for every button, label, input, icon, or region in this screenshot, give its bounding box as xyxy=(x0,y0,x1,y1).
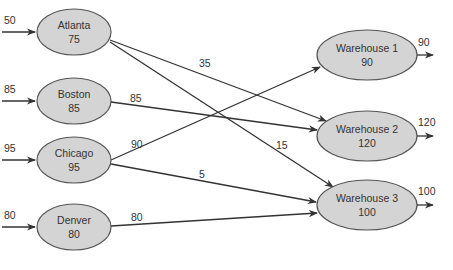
node-value: 75 xyxy=(68,33,80,45)
node-name: Atlanta xyxy=(58,19,91,31)
node-name: Warehouse 1 xyxy=(336,42,398,54)
node-value: 90 xyxy=(361,56,373,68)
atlanta-inflow-label: 50 xyxy=(4,14,16,26)
edge-boston-warehouse2: 85 xyxy=(111,92,317,130)
edge-label: 5 xyxy=(199,168,205,180)
node-name: Warehouse 2 xyxy=(336,123,398,135)
edge-label: 35 xyxy=(199,57,211,69)
node-value: 85 xyxy=(68,102,80,114)
warehouse3-outflow: 100 xyxy=(417,185,436,205)
edge-atlanta-warehouse3: 15 xyxy=(110,42,333,187)
boston-inflow: 85 xyxy=(2,83,35,101)
node-value: 120 xyxy=(358,137,376,149)
node-value: 95 xyxy=(68,161,80,173)
node-name: Chicago xyxy=(55,147,94,159)
warehouse1-outflow: 90 xyxy=(417,36,433,55)
edge-atlanta-warehouse2: 35 xyxy=(110,40,326,121)
denver-inflow-label: 80 xyxy=(4,209,16,221)
node-value: 80 xyxy=(68,228,80,240)
node-warehouse3: Warehouse 3 100 xyxy=(317,180,417,230)
edge-chicago-warehouse1: 90 xyxy=(111,67,320,160)
edge-chicago-warehouse3: 5 xyxy=(111,164,316,202)
node-atlanta: Atlanta 75 xyxy=(37,9,111,55)
atlanta-inflow: 50 xyxy=(2,14,35,32)
node-warehouse1: Warehouse 1 90 xyxy=(317,30,417,80)
node-chicago: Chicago 95 xyxy=(37,137,111,183)
node-value: 100 xyxy=(358,206,376,218)
edge-arrow-icon xyxy=(110,40,326,121)
node-boston: Boston 85 xyxy=(37,78,111,124)
edge-label: 85 xyxy=(130,92,142,104)
edge-label: 15 xyxy=(276,139,288,151)
node-name: Warehouse 3 xyxy=(336,192,398,204)
warehouse2-outflow: 120 xyxy=(417,116,436,136)
chicago-inflow-label: 95 xyxy=(4,142,16,154)
node-name: Boston xyxy=(58,88,91,100)
warehouse2-outflow-label: 120 xyxy=(418,116,436,128)
denver-inflow: 80 xyxy=(2,209,35,227)
edge-label: 90 xyxy=(131,138,143,150)
edge-label: 80 xyxy=(131,211,143,223)
node-warehouse2: Warehouse 2 120 xyxy=(317,111,417,161)
warehouse1-outflow-label: 90 xyxy=(418,36,430,48)
network-flow-diagram: 50 85 95 80 35 15 85 90 5 80 Atlanta 7 xyxy=(0,0,453,270)
warehouse3-outflow-label: 100 xyxy=(418,185,436,197)
chicago-inflow: 95 xyxy=(2,142,35,160)
edge-arrow-icon xyxy=(110,42,333,187)
node-denver: Denver 80 xyxy=(37,204,111,250)
edge-denver-warehouse3: 80 xyxy=(111,211,317,226)
edge-arrow-icon xyxy=(111,164,316,202)
boston-inflow-label: 85 xyxy=(4,83,16,95)
node-name: Denver xyxy=(57,214,91,226)
